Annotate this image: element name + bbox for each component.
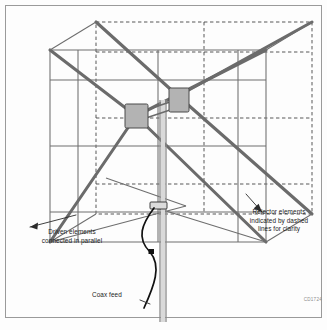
spoke-reflector-lower-right	[178, 96, 312, 214]
spoke-reflector-upper-right	[178, 22, 312, 96]
label-reflector-elements: Relector elements indicated by dashed li…	[234, 208, 324, 234]
driven-hub-block	[125, 104, 148, 128]
edge-top-left	[50, 22, 96, 50]
antenna-diagram-figure: Driven elements connected in parallel Re…	[0, 0, 327, 330]
spoke-upper-left	[50, 50, 136, 116]
label-leader-group	[30, 194, 262, 304]
fan-line-mid	[106, 178, 186, 206]
figure-code: CD1724	[286, 296, 322, 305]
mast-mount-block	[169, 88, 189, 112]
mounting-hardware-group	[125, 88, 189, 209]
edge-top-right	[266, 22, 312, 50]
spoke-reflector-upper-left	[96, 22, 178, 96]
feed-connector-block	[150, 202, 167, 209]
diagram-canvas	[0, 0, 327, 330]
label-driven-elements: Driven elements connected in parallel	[14, 228, 130, 245]
label-coax-feed: Coax feed	[92, 291, 148, 300]
leader-coax	[140, 300, 150, 304]
coax-tie-marker	[149, 249, 155, 254]
